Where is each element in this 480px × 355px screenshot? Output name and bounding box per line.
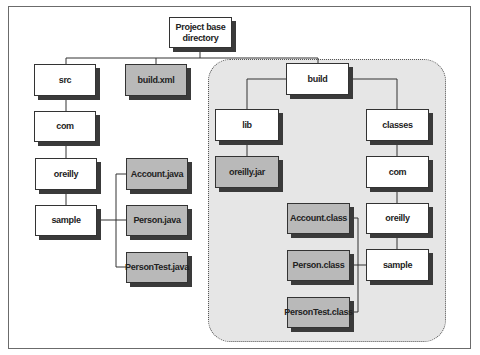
node-build-xml: build.xml — [125, 64, 187, 96]
node-persontest-java: PersonTest.java — [126, 252, 188, 283]
node-src-com: com — [34, 111, 96, 142]
node-person-class: Person.class — [287, 250, 350, 281]
node-src: src — [34, 64, 96, 96]
edge-root-bus-horizontal — [66, 58, 318, 64]
node-account-java: Account.java — [126, 158, 188, 190]
root-label-line-2: directory — [176, 33, 226, 44]
node-src-sample: sample — [35, 205, 97, 236]
node-account-class: Account.class — [287, 203, 350, 234]
node-build: build — [286, 63, 349, 95]
edge-build-lib — [247, 79, 286, 109]
node-src-oreilly: oreilly — [35, 158, 97, 190]
node-persontest-class: PersonTest.class — [287, 297, 350, 328]
node-classes: classes — [366, 109, 429, 141]
root-label-line-1: Project base — [176, 22, 226, 33]
node-lib: lib — [215, 109, 279, 141]
edge-build-classes — [349, 79, 397, 109]
node-classes-sample: sample — [366, 249, 429, 281]
node-classes-com: com — [366, 156, 429, 188]
node-project-base-directory: Project base directory — [169, 17, 232, 48]
node-classes-oreilly: oreilly — [366, 203, 429, 234]
node-oreilly-jar: oreilly.jar — [215, 156, 279, 188]
node-person-java: Person.java — [126, 205, 188, 236]
